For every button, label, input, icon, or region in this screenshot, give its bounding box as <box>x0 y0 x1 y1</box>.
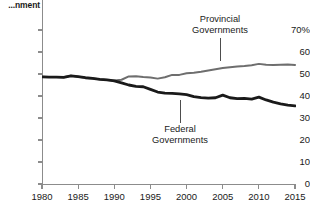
annotation-provincial-line1: Provincial <box>176 14 264 25</box>
x-tick-label: 1990 <box>94 192 134 202</box>
annotation-federal-line1: Federal <box>136 124 224 135</box>
x-tick-mark <box>78 185 79 189</box>
chart-title: ...ng by ...nment <box>0 0 40 10</box>
x-tick-label: 1980 <box>22 192 62 202</box>
x-tick-mark <box>150 185 151 189</box>
x-tick-mark <box>41 185 42 189</box>
annotation-federal-line2: Governments <box>136 135 224 146</box>
x-tick-mark <box>294 185 295 189</box>
y-tick-mark <box>38 73 42 74</box>
leader-line-federal <box>180 100 181 123</box>
y-tick-mark <box>38 51 42 52</box>
x-tick-label: 1985 <box>58 192 98 202</box>
x-tick-label: 2015 <box>275 192 310 202</box>
x-tick-label: 1995 <box>130 192 170 202</box>
x-tick-mark <box>114 185 115 189</box>
x-tick-mark <box>258 185 259 189</box>
chart-page: ...ng by ...nment 70%6050403020100 19801… <box>0 0 310 213</box>
x-tick-label: 2000 <box>167 192 207 202</box>
y-tick-mark <box>38 117 42 118</box>
y-tick-mark <box>38 95 42 96</box>
annotation-provincial: Provincial Governments <box>176 14 264 36</box>
leader-line-provincial <box>220 38 221 61</box>
annotation-federal: Federal Governments <box>136 124 224 146</box>
x-tick-label: 2010 <box>239 192 279 202</box>
y-tick-mark <box>38 139 42 140</box>
chart-title-line2: ...nment <box>0 1 40 11</box>
y-tick-mark <box>38 29 42 30</box>
annotation-provincial-line2: Governments <box>176 25 264 36</box>
x-tick-mark <box>222 185 223 189</box>
x-tick-label: 2005 <box>203 192 243 202</box>
series-line <box>42 76 295 106</box>
x-tick-mark <box>186 185 187 189</box>
y-tick-mark <box>38 161 42 162</box>
